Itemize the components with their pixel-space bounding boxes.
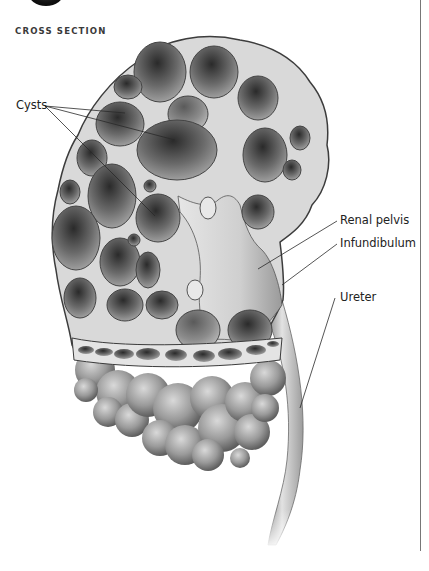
kidney-illustration bbox=[0, 0, 429, 571]
label-renal-pelvis: Renal pelvis bbox=[340, 213, 409, 227]
label-ureter: Ureter bbox=[340, 290, 376, 304]
label-infundibulum: Infundibulum bbox=[340, 236, 416, 250]
outer-cyst-cluster bbox=[74, 350, 286, 471]
label-cysts: Cysts bbox=[16, 98, 47, 112]
